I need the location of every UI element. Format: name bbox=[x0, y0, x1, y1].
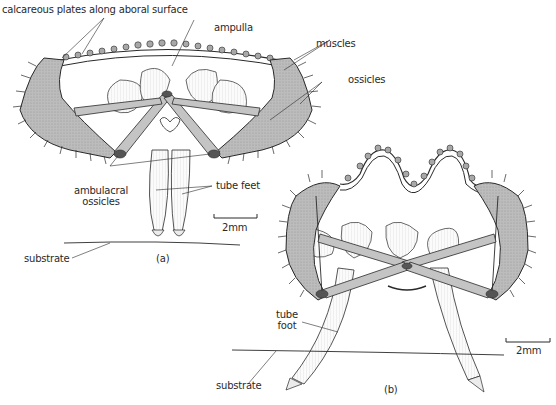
scale-bar-label-a: 2mm bbox=[222, 222, 247, 233]
scale-bar-a bbox=[214, 214, 257, 218]
label-ambulacral-line1: ambulacral bbox=[66, 185, 136, 196]
substrate-line-a bbox=[64, 242, 240, 245]
caption-b: (b) bbox=[384, 384, 398, 395]
tube-feet-a bbox=[149, 150, 190, 232]
scale-bar-label-b: 2mm bbox=[516, 345, 541, 356]
label-muscles: muscles bbox=[316, 38, 356, 49]
tube-foot-right-a bbox=[171, 150, 190, 232]
scale-bar-b bbox=[506, 338, 550, 342]
label-ampulla: ampulla bbox=[214, 22, 253, 33]
radial-canal-a bbox=[160, 117, 180, 132]
label-tube-foot: tube foot bbox=[270, 309, 304, 331]
label-calcareous-plates: calcareous plates along aboral surface bbox=[2, 4, 188, 15]
label-tube-foot-line1: tube bbox=[270, 309, 304, 320]
label-ambulacral-ossicles: ambulacral ossicles bbox=[66, 185, 136, 207]
calcareous-plates-a bbox=[63, 40, 273, 61]
label-substrate-b: substrate bbox=[216, 380, 262, 391]
label-ossicles: ossicles bbox=[348, 74, 385, 85]
label-ambulacral-line2: ossicles bbox=[66, 196, 136, 207]
sea-star-arm-cross-section-figure: calcareous plates along aboral surface a… bbox=[0, 0, 556, 405]
label-substrate-a: substrate bbox=[24, 253, 70, 264]
label-tube-foot-line2: foot bbox=[270, 320, 304, 331]
label-tube-feet: tube feet bbox=[216, 180, 260, 191]
panel-a bbox=[13, 18, 330, 258]
caption-a: (a) bbox=[156, 253, 169, 264]
tube-foot-left-a bbox=[149, 150, 168, 232]
panel-b bbox=[232, 145, 550, 392]
